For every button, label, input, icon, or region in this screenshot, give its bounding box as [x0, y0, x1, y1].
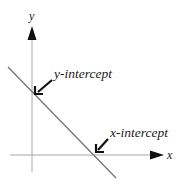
intercepts-diagram: y x y-intercept x-intercept: [0, 0, 185, 184]
y-axis-label: y: [28, 9, 35, 23]
y-intercept-pointer: [38, 80, 52, 92]
function-line: [8, 67, 116, 178]
x-intercept-label: x-intercept: [109, 125, 169, 140]
x-axis-arrowhead-icon: [150, 151, 164, 160]
x-axis-label: x: [166, 148, 173, 162]
x-intercept-pointer: [98, 139, 108, 150]
y-intercept-label: y-intercept: [52, 66, 113, 81]
y-axis-arrowhead-icon: [28, 26, 37, 40]
